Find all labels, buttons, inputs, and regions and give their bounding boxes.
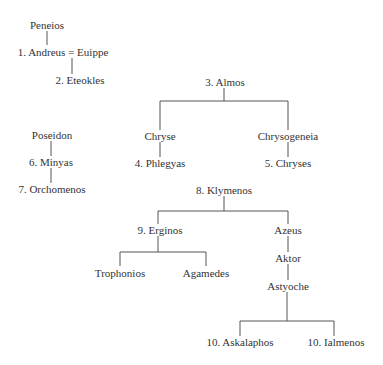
node-ialmenos: 10. Ialmenos	[308, 336, 365, 348]
node-minyas: 6. Minyas	[29, 156, 73, 168]
node-erginos: 9. Erginos	[137, 224, 182, 236]
node-astyoche: Astyoche	[267, 280, 309, 292]
node-azeus: Azeus	[274, 224, 302, 236]
node-chrysogeneia: Chrysogeneia	[258, 130, 318, 142]
node-eteokles: 2. Eteokles	[56, 74, 105, 86]
genealogy-diagram: Peneios 1. Andreus = Euippe 2. Eteokles …	[0, 0, 383, 365]
node-andreus-euippe: 1. Andreus = Euippe	[18, 46, 109, 58]
node-klymenos: 8. Klymenos	[196, 184, 252, 196]
node-poseidon: Poseidon	[32, 129, 72, 141]
node-peneios: Peneios	[30, 19, 64, 31]
node-agamedes: Agamedes	[183, 267, 229, 279]
node-chryse: Chryse	[144, 130, 175, 142]
node-chryses: 5. Chryses	[265, 157, 311, 169]
node-orchomenos: 7. Orchomenos	[18, 183, 85, 195]
node-aktor: Aktor	[275, 252, 301, 264]
node-phlegyas: 4. Phlegyas	[135, 157, 186, 169]
node-trophonios: Trophonios	[95, 267, 145, 279]
node-almos: 3. Almos	[205, 76, 245, 88]
node-askalaphos: 10. Askalaphos	[206, 336, 273, 348]
